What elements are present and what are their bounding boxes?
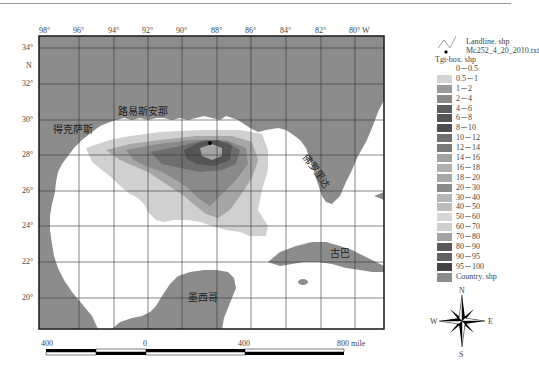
legend-row: 12－14: [432, 143, 512, 153]
legend-swatch: [437, 95, 452, 103]
scale-label: 0: [143, 339, 147, 348]
legend-swatch: [437, 105, 452, 113]
scale-label: 400: [238, 339, 250, 348]
legend-swatch: [437, 154, 452, 162]
legend-row: 70－80: [432, 232, 512, 242]
legend-tgt-box-title: Tgt-box. shp: [435, 55, 476, 64]
legend-row: 0－0.5: [432, 64, 512, 74]
legend-swatch: [437, 253, 452, 261]
legend-swatch: [437, 85, 452, 93]
legend-swatch: [437, 263, 452, 271]
legend-row: 1－2: [432, 84, 512, 94]
legend-classes: 0－0.5 0.5－1 1－2 2－4 4－6 6－8 8－10 10－12 1…: [432, 64, 512, 282]
lon-tick: 90°: [176, 26, 187, 35]
legend-row: 14－16: [432, 153, 512, 163]
legend-swatch: [437, 134, 452, 142]
legend-row: 40－50: [432, 202, 512, 212]
legend-swatch: [437, 223, 452, 231]
legend-row: 0.5－1: [432, 74, 512, 84]
legend-row: 2－4: [432, 94, 512, 104]
source-point-legend-icon: [444, 50, 448, 54]
legend-swatch: [437, 273, 452, 282]
legend-row: 30－40: [432, 193, 512, 203]
legend-landline-label: Landline. shp: [466, 37, 510, 46]
isla-de-la-juventud: [298, 279, 308, 285]
legend-swatch: [437, 243, 452, 251]
legend-row: 80－90: [432, 242, 512, 252]
compass-w: W: [430, 317, 438, 326]
legend-swatch: [437, 114, 452, 122]
legend-swatch: [437, 213, 452, 221]
legend-swatch: [437, 75, 452, 83]
legend-swatch: [437, 203, 452, 211]
scale-label: 800 mile: [337, 339, 365, 348]
compass-s: S: [459, 350, 463, 359]
lat-tick: 22°: [22, 257, 33, 266]
label-mexico: 墨西哥: [188, 289, 218, 304]
legend-swatch: [437, 233, 452, 241]
lon-tick: 84°: [280, 26, 291, 35]
lat-tick: 30°: [22, 115, 33, 124]
legend-row: 6－8: [432, 113, 512, 123]
legend-row-country: Country. shp: [432, 272, 512, 282]
lon-tick: 86°: [245, 26, 256, 35]
legend-swatch: [437, 174, 452, 182]
label-louisiana: 路易斯安那: [118, 103, 168, 118]
lat-hemisphere: N: [26, 61, 32, 70]
scale-bar: [46, 349, 344, 355]
lat-tick: 20°: [22, 293, 33, 302]
legend-swatch: [437, 164, 452, 172]
legend-row: 8－10: [432, 123, 512, 133]
lat-tick: 28°: [22, 150, 33, 159]
label-cuba: 古巴: [330, 245, 350, 260]
legend-swatch: [437, 65, 452, 73]
source-point-marker: [208, 141, 212, 145]
legend-row: 95－100: [432, 262, 512, 272]
legend-row: 20－30: [432, 183, 512, 193]
lon-tick: 88°: [211, 26, 222, 35]
legend-swatch: [437, 124, 452, 132]
lon-tick: 94°: [108, 26, 119, 35]
lon-tick: 98°: [39, 26, 50, 35]
legend-row: 60－70: [432, 222, 512, 232]
lat-tick: 26°: [22, 186, 33, 195]
lon-tick: 80° W: [349, 26, 370, 35]
legend-row: 4－6: [432, 104, 512, 114]
legend-row: 50－60: [432, 212, 512, 222]
legend-swatch: [437, 144, 452, 152]
legend-row: 90－95: [432, 252, 512, 262]
label-texas: 得克萨斯: [53, 121, 93, 136]
scale-label: 400: [41, 339, 53, 348]
lat-tick: 32°: [22, 79, 33, 88]
compass-n: N: [459, 286, 465, 295]
lon-tick: 96°: [73, 26, 84, 35]
legend-row: 10－12: [432, 133, 512, 143]
legend-swatch: [437, 194, 452, 202]
lat-tick: 24°: [22, 221, 33, 230]
legend-swatch: [437, 184, 452, 192]
compass-e: E: [488, 317, 493, 326]
legend-row: 18－20: [432, 173, 512, 183]
lat-tick: 34°: [22, 43, 33, 52]
legend-source-point-label: Mc252_4_20_2010.txt: [466, 46, 539, 55]
lon-tick: 92°: [142, 26, 153, 35]
lon-tick: 82°: [315, 26, 326, 35]
legend-row: 16－18: [432, 163, 512, 173]
landline-legend-icon: [438, 36, 456, 48]
compass-rose-icon: [439, 295, 485, 347]
